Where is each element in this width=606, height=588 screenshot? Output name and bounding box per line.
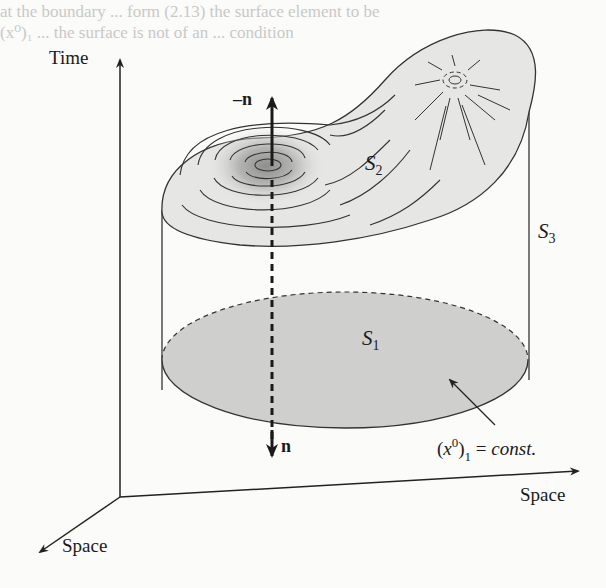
- surface-s2: [162, 30, 536, 246]
- time-axis-label: Time: [49, 47, 88, 68]
- space-axis-horizontal-label: Space: [520, 484, 565, 505]
- surface-s3-label: S3: [538, 219, 556, 246]
- normal-label: n: [281, 436, 291, 456]
- space-axis-depth-label: Space: [62, 535, 107, 556]
- space-axis-horizontal: [120, 471, 578, 497]
- surface-s1: [162, 292, 528, 428]
- time-constant-annotation: (x0)1 = const.: [437, 435, 536, 464]
- spacetime-diagram: Time Space Space –n n S2 S3 S1 (x0)1 = c…: [0, 0, 606, 588]
- neg-normal-label: –n: [232, 89, 252, 109]
